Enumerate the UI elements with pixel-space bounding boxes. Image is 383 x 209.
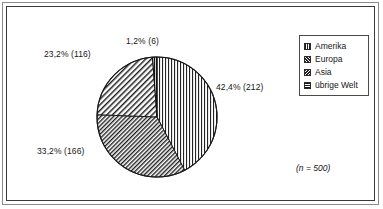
legend-swatch-icon-amerika	[304, 43, 311, 50]
legend-swatch-icon-asia	[304, 69, 311, 76]
data-label-europa: 23,2% (116)	[44, 49, 91, 59]
data-label-asia: 33,2% (166)	[37, 146, 84, 156]
legend-item-uebrige-welt: übrige Welt	[304, 79, 365, 91]
legend-item-asia: Asia	[304, 66, 365, 78]
pie-slice-europa	[97, 57, 157, 117]
legend-item-amerika: Amerika	[304, 40, 365, 52]
legend-label-asia: Asia	[315, 67, 332, 77]
sample-size-annotation: (n = 500)	[296, 163, 330, 173]
chart-screenshot: 1,2% (6) 23,2% (116) 42,4% (212) 33,2% (…	[0, 0, 383, 209]
data-label-uebrige-welt: 1,2% (6)	[126, 36, 159, 46]
pie-chart-svg	[0, 0, 383, 209]
legend-swatch-icon-uebrige-welt	[304, 82, 311, 89]
pie-chart-plot-area: 1,2% (6) 23,2% (116) 42,4% (212) 33,2% (…	[0, 0, 383, 209]
legend-label-amerika: Amerika	[315, 41, 346, 51]
legend-swatch-icon-europa	[304, 56, 311, 63]
legend-item-europa: Europa	[304, 53, 365, 65]
data-label-amerika: 42,4% (212)	[216, 82, 263, 92]
legend-label-europa: Europa	[315, 54, 342, 64]
chart-legend: Amerika Europa Asia übrige Welt	[299, 35, 369, 96]
legend-label-uebrige-welt: übrige Welt	[315, 80, 358, 90]
